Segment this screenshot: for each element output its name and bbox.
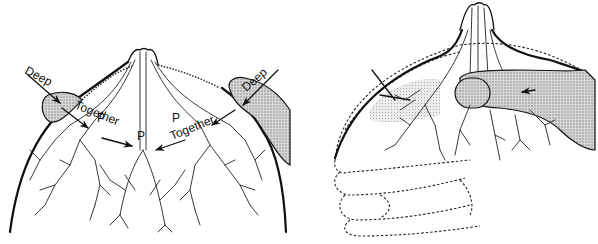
duct	[143, 150, 165, 225]
illustration: Deep Together P P P Together Deep	[0, 0, 598, 244]
areola-left	[82, 66, 132, 100]
label-p-center: P	[137, 129, 145, 143]
nipple	[460, 3, 494, 30]
fingernail	[455, 78, 490, 108]
right-panel	[335, 3, 595, 236]
finger-dashed-6	[460, 180, 472, 215]
finger-dashed-5	[380, 195, 389, 218]
label-p-right: P	[172, 111, 180, 125]
right-finger	[229, 78, 290, 166]
finger-dashed-2	[335, 172, 465, 195]
duct	[120, 150, 143, 215]
ductules-left	[30, 120, 135, 228]
compressed-area	[370, 79, 440, 122]
finger-dashed-4	[345, 220, 480, 236]
together-arrow-left-2	[102, 138, 132, 146]
areola-right	[158, 65, 220, 88]
left-panel: Deep Together P P P Together Deep	[10, 49, 290, 233]
ductules-right	[150, 125, 265, 232]
finger-dashed-1	[335, 160, 470, 173]
finger-dashed-3	[340, 195, 470, 220]
together-arrow-right	[212, 110, 235, 125]
breast-outline-left	[10, 62, 128, 232]
nipple	[128, 49, 158, 66]
duct	[155, 62, 230, 125]
together-arrow-right-2	[156, 140, 185, 150]
label-deep-left: Deep	[23, 63, 55, 89]
breast-outline-top	[492, 30, 585, 72]
label-p-left: P	[97, 111, 105, 125]
